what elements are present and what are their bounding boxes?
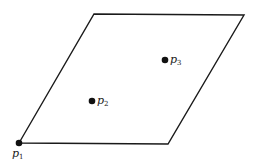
label-subscript: 2 bbox=[104, 100, 108, 108]
label-subscript: 3 bbox=[177, 59, 181, 67]
point-p3-dot bbox=[162, 57, 169, 64]
parallelogram-figure bbox=[0, 0, 257, 164]
label-base: p bbox=[97, 94, 104, 107]
label-base: p bbox=[12, 147, 19, 160]
point-p2-dot bbox=[89, 98, 96, 105]
point-p2-label: p2 bbox=[97, 95, 109, 108]
point-p1-label: p1 bbox=[12, 148, 24, 161]
label-base: p bbox=[170, 53, 177, 66]
label-subscript: 1 bbox=[19, 153, 23, 161]
parallelogram bbox=[19, 14, 244, 144]
diagram-canvas: p1 p2 p3 bbox=[0, 0, 257, 164]
point-p3-label: p3 bbox=[170, 54, 182, 67]
point-p1-dot bbox=[16, 140, 23, 147]
